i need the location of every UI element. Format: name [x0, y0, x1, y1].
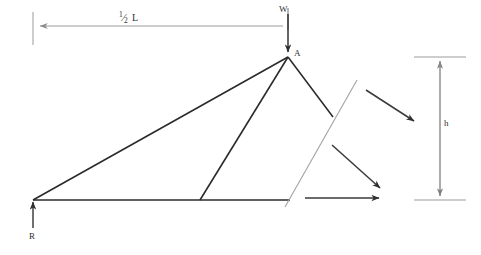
load-label-w: W [279, 4, 288, 14]
height-label-h: h [444, 118, 449, 128]
height-dimension [414, 57, 466, 200]
fraction-denominator: 2 [124, 17, 128, 25]
force-arrows [305, 90, 414, 198]
reaction-label-r: R [29, 231, 35, 241]
apex-label-a: A [294, 48, 301, 58]
fraction-one-half: 1 ⁄ 2 [119, 12, 129, 23]
upper-right-force-arrow [366, 90, 414, 121]
right-chord-member [288, 57, 333, 117]
truss-members [33, 57, 333, 200]
half-span-dimension [33, 8, 288, 45]
half-span-label: 1 ⁄ 2 L [119, 12, 138, 23]
web-member [200, 57, 288, 200]
section-cut-line [285, 80, 357, 207]
lower-right-force-arrow [332, 145, 380, 188]
span-symbol-label: L [132, 12, 138, 23]
diagram-canvas: 1 ⁄ 2 L W A R h [0, 0, 481, 255]
top-chord-member [33, 57, 288, 200]
fraction-numerator: 1 [119, 11, 123, 19]
truss-diagram-svg [0, 0, 481, 255]
